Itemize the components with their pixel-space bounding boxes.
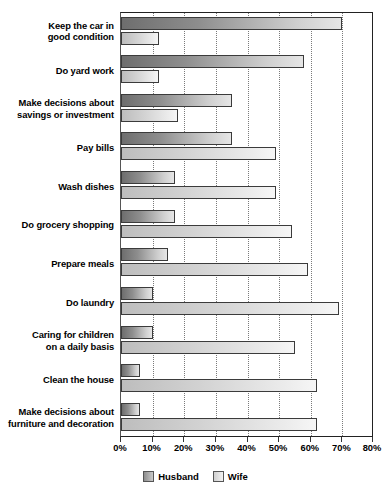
category-label: Make decisions about savings or investme… [0, 97, 114, 120]
category-label: Wash dishes [0, 181, 114, 192]
bar-wife [121, 379, 317, 392]
bar-wife [121, 225, 292, 238]
chart-row: Clean the house [0, 360, 391, 399]
x-tick [152, 437, 153, 442]
x-tick [372, 437, 373, 442]
bar-husband [121, 171, 175, 184]
category-label-line: Wash dishes [58, 181, 114, 192]
bar-wife [121, 186, 276, 199]
chart-row: Keep the car in good condition [0, 12, 391, 51]
category-label: Caring for children on a daily basis [0, 329, 114, 352]
x-tick [183, 437, 184, 442]
chart-row: Wash dishes [0, 167, 391, 206]
x-tick [215, 437, 216, 442]
bar-wife [121, 341, 295, 354]
bar-wife [121, 302, 339, 315]
bar-rows: Keep the car in good condition Do yard w… [0, 12, 391, 437]
bar-husband [121, 55, 304, 68]
chart-row: Do yard work [0, 51, 391, 90]
category-label-line: Make decisions about [19, 97, 114, 108]
horizontal-bar-chart: Keep the car in good condition Do yard w… [0, 0, 391, 486]
bar-husband [121, 248, 168, 261]
category-label-line: good condition [48, 31, 114, 42]
bar-husband [121, 94, 232, 107]
legend-item-husband: Husband [143, 471, 199, 482]
bar-husband [121, 403, 140, 416]
category-label-line: Make decisions about [19, 406, 114, 417]
chart-legend: Husband Wife [0, 468, 391, 484]
legend-item-wife: Wife [213, 471, 248, 482]
x-tick [120, 437, 121, 442]
chart-row: Pay bills [0, 128, 391, 167]
category-label: Keep the car in good condition [0, 20, 114, 43]
x-tick [247, 437, 248, 442]
legend-label: Wife [228, 471, 248, 482]
chart-row: Do grocery shopping [0, 205, 391, 244]
chart-row: Make decisions about furniture and decor… [0, 398, 391, 437]
category-label-line: furniture and decoration [8, 418, 114, 429]
category-label: Do laundry [0, 297, 114, 308]
bar-husband [121, 364, 140, 377]
category-label: Do yard work [0, 65, 114, 76]
category-label: Make decisions about furniture and decor… [0, 406, 114, 429]
bar-husband [121, 132, 232, 145]
x-tick [310, 437, 311, 442]
bar-wife [121, 263, 308, 276]
bar-husband [121, 326, 153, 339]
legend-label: Husband [158, 471, 199, 482]
chart-row: Make decisions about savings or investme… [0, 89, 391, 128]
category-label: Pay bills [0, 142, 114, 153]
legend-swatch-icon [143, 471, 154, 482]
bar-wife [121, 70, 159, 83]
category-label-line: Keep the car in [48, 20, 114, 31]
category-label: Clean the house [0, 374, 114, 385]
legend-swatch-icon [213, 471, 224, 482]
category-label-line: Prepare meals [51, 258, 114, 269]
category-label-line: Clean the house [43, 374, 114, 385]
chart-row: Caring for children on a daily basis [0, 321, 391, 360]
bar-husband [121, 287, 153, 300]
category-label-line: Pay bills [77, 142, 114, 153]
bar-wife [121, 147, 276, 160]
chart-row: Do laundry [0, 283, 391, 322]
category-label-line: Do grocery shopping [22, 219, 114, 230]
bar-wife [121, 109, 178, 122]
category-label-line: Do laundry [66, 297, 114, 308]
x-tick [278, 437, 279, 442]
x-axis-label: 80% [352, 443, 391, 453]
chart-row: Prepare meals [0, 244, 391, 283]
bar-wife [121, 32, 159, 45]
category-label: Do grocery shopping [0, 219, 114, 230]
bar-wife [121, 418, 317, 431]
bar-husband [121, 210, 175, 223]
bar-husband [121, 17, 342, 30]
category-label-line: Do yard work [56, 65, 114, 76]
category-label-line: savings or investment [17, 109, 114, 120]
category-label: Prepare meals [0, 258, 114, 269]
category-label-line: Caring for children [32, 329, 114, 340]
category-label-line: on a daily basis [46, 341, 114, 352]
x-tick [341, 437, 342, 442]
x-axis-labels: 0% 10% 20% 30% 40% 50% 60% 70% 80% [0, 443, 391, 457]
